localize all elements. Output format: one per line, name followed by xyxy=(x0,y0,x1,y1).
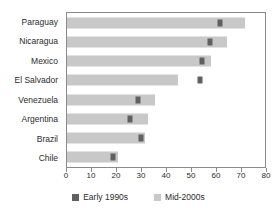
x-tick-label: 20 xyxy=(112,172,121,180)
x-tick-label: 50 xyxy=(187,172,196,180)
plot-area xyxy=(66,12,266,168)
y-axis-label: Nicaragua xyxy=(0,32,62,52)
chart-legend: Early 1990sMid-2000s xyxy=(0,189,277,205)
x-tick-label: 70 xyxy=(237,172,246,180)
marker-early-1990s xyxy=(217,19,222,26)
marker-early-1990s xyxy=(200,58,205,65)
bar-mid-2000s xyxy=(67,113,148,124)
marker-early-1990s xyxy=(138,135,143,142)
x-tick-label: 0 xyxy=(64,172,68,180)
bar-mid-2000s xyxy=(67,94,155,105)
y-axis-category-labels: ParaguayNicaraguaMexicoEl SalvadorVenezu… xyxy=(0,12,62,168)
bar-mid-2000s xyxy=(67,56,211,67)
x-tick-label: 60 xyxy=(212,172,221,180)
marker-early-1990s xyxy=(111,154,116,161)
y-axis-label: Mexico xyxy=(0,51,62,71)
x-tick-label: 80 xyxy=(262,172,271,180)
marker-early-1990s xyxy=(207,38,212,45)
chart-row xyxy=(67,129,265,148)
x-tick-label: 40 xyxy=(162,172,171,180)
legend-swatch-icon xyxy=(72,194,79,201)
x-tick-label: 30 xyxy=(137,172,146,180)
y-axis-label: Brazil xyxy=(0,129,62,149)
y-axis-label: El Salvador xyxy=(0,71,62,91)
legend-entry[interactable]: Mid-2000s xyxy=(154,193,205,202)
chart-row xyxy=(67,71,265,90)
legend-swatch-icon xyxy=(154,194,161,201)
y-axis-label: Venezuela xyxy=(0,90,62,110)
chart-row xyxy=(67,109,265,128)
chart-row xyxy=(67,148,265,167)
marker-early-1990s xyxy=(136,96,141,103)
marker-early-1990s xyxy=(127,115,132,122)
chart-row xyxy=(67,52,265,71)
x-tick-label: 10 xyxy=(87,172,96,180)
chart-row xyxy=(67,13,265,32)
chart-row xyxy=(67,90,265,109)
legend-entry[interactable]: Early 1990s xyxy=(72,193,128,202)
legend-label: Early 1990s xyxy=(83,193,128,202)
bar-mid-2000s xyxy=(67,75,178,86)
legend-label: Mid-2000s xyxy=(165,193,205,202)
x-axis-tick-labels: 01020304050607080 xyxy=(66,172,266,184)
bar-chart: ParaguayNicaraguaMexicoEl SalvadorVenezu… xyxy=(0,0,277,210)
y-axis-label: Argentina xyxy=(0,110,62,130)
bar-mid-2000s xyxy=(67,36,227,47)
y-axis-label: Chile xyxy=(0,149,62,169)
y-axis-label: Paraguay xyxy=(0,12,62,32)
chart-row xyxy=(67,32,265,51)
marker-early-1990s xyxy=(197,77,202,84)
bar-rows xyxy=(67,13,265,167)
bar-mid-2000s xyxy=(67,133,145,144)
